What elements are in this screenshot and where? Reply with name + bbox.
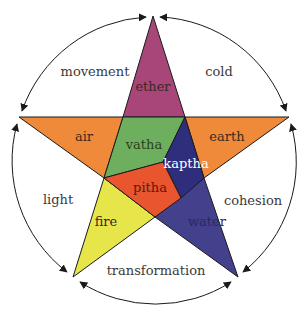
label-ether: ether: [135, 79, 171, 94]
label-transformation: transformation: [107, 263, 206, 278]
label-cold: cold: [205, 64, 233, 79]
label-light: light: [43, 192, 74, 207]
arc-transformation: [80, 282, 231, 304]
label-vatha: vatha: [125, 137, 163, 152]
label-cohesion: cohesion: [224, 193, 283, 208]
element-ether-point: [123, 16, 185, 117]
label-fire: fire: [95, 214, 118, 229]
label-earth: earth: [209, 129, 245, 144]
label-air: air: [75, 129, 94, 144]
label-water: water: [188, 214, 227, 229]
label-pitha: pitha: [133, 180, 167, 195]
pentagram-diagram: ether air earth fire water vatha kaptha …: [0, 0, 306, 316]
label-kaptha: kaptha: [163, 156, 209, 171]
label-movement: movement: [61, 64, 131, 79]
